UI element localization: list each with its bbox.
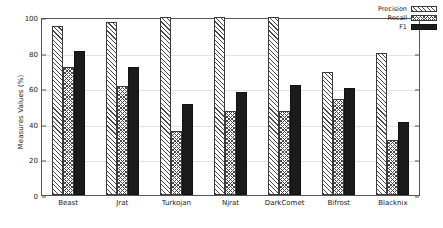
y-axis-tick-mark (42, 197, 46, 198)
bar-f1-blacknix (398, 122, 409, 195)
bar-group (150, 19, 204, 195)
x-axis-labels: BeastJratTurkojanNjratDarkCometBifrostBl… (41, 199, 420, 207)
bar-recall-blacknix (387, 140, 398, 195)
x-axis-tick-label: Bifrost (312, 199, 366, 207)
bar-recall-bifrost (333, 99, 344, 195)
x-axis-tick-label: Blacknix (366, 199, 420, 207)
plot-area: 020406080100 (41, 18, 420, 196)
legend-label: Recall (388, 14, 407, 22)
chart-legend: PrecisionRecallF1 (378, 5, 437, 31)
bar-precision-turkojan (160, 17, 171, 195)
bar-recall-turkojan (171, 131, 182, 195)
bar-f1-darkcomet (290, 85, 301, 195)
y-axis-tick-mark (415, 197, 419, 198)
bar-group (311, 19, 365, 195)
bar-group (96, 19, 150, 195)
y-axis-tick-label: 0 (34, 193, 38, 201)
bar-precision-darkcomet (268, 17, 279, 195)
bar-group (365, 19, 419, 195)
bar-precision-njrat (214, 17, 225, 195)
y-axis-tick-label: 60 (29, 86, 38, 94)
bar-groups (42, 19, 419, 195)
bar-precision-beast (52, 26, 63, 195)
legend-label: F1 (399, 23, 407, 31)
bar-group (204, 19, 258, 195)
legend-swatch-precision-icon (411, 6, 437, 12)
x-axis-tick-label: Njrat (203, 199, 257, 207)
bar-f1-turkojan (182, 104, 193, 195)
bar-recall-njrat (225, 111, 236, 195)
legend-label: Precision (378, 5, 407, 13)
bar-f1-bifrost (344, 88, 355, 195)
bar-precision-blacknix (376, 53, 387, 195)
legend-item-recall: Recall (388, 14, 437, 22)
legend-swatch-f1-icon (411, 24, 437, 30)
legend-item-precision: Precision (378, 5, 437, 13)
bar-group (42, 19, 96, 195)
bar-chart: Measures Values (%) 020406080100 BeastJr… (0, 0, 443, 228)
legend-item-f1: F1 (399, 23, 437, 31)
bar-recall-jrat (117, 86, 128, 195)
x-axis-tick-label: Jrat (95, 199, 149, 207)
bar-precision-jrat (106, 22, 117, 195)
bar-f1-jrat (128, 67, 139, 195)
y-axis-tick-label: 20 (29, 157, 38, 165)
bar-f1-beast (74, 51, 85, 195)
bar-recall-darkcomet (279, 111, 290, 195)
bar-f1-njrat (236, 92, 247, 195)
y-axis-tick-label: 100 (25, 15, 38, 23)
y-axis-label: Measures Values (%) (17, 47, 25, 177)
x-axis-tick-label: DarkComet (258, 199, 312, 207)
y-axis-tick-label: 80 (29, 51, 38, 59)
legend-swatch-recall-icon (411, 15, 437, 21)
bar-group (257, 19, 311, 195)
bar-precision-bifrost (322, 72, 333, 195)
x-axis-tick-label: Turkojan (149, 199, 203, 207)
y-axis-tick-label: 40 (29, 122, 38, 130)
x-axis-tick-label: Beast (41, 199, 95, 207)
bar-recall-beast (63, 67, 74, 195)
